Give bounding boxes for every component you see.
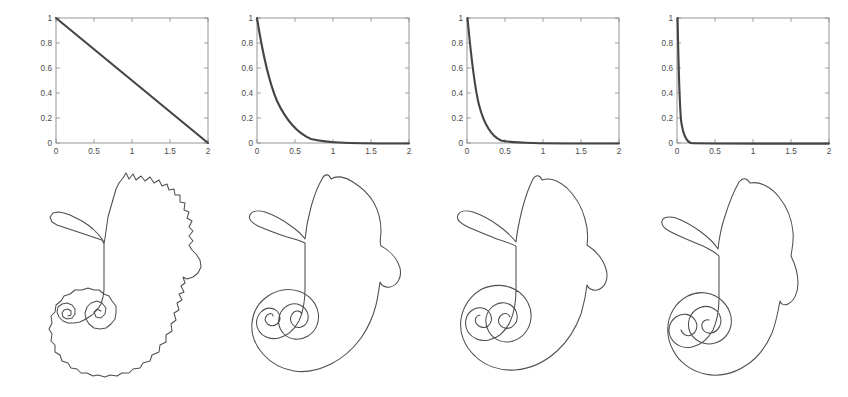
y-ticklabel: 0.8 — [662, 39, 674, 48]
y-ticklabel: 0.2 — [41, 114, 53, 123]
plot-svg-3: 0 0.2 0.4 0.6 0.8 1 0 0.5 1 1.5 2 — [411, 0, 623, 165]
panel-column-4: 0 0.2 0.4 0.6 0.8 1 0 0.5 1 1.5 2 — [621, 0, 833, 397]
shape-panel-4 — [621, 165, 833, 397]
y-ticklabel: 0.6 — [242, 64, 254, 73]
x-ticklabel: 0.5 — [709, 147, 721, 156]
shape-panel-3 — [411, 165, 623, 397]
seahorse-svg-4 — [621, 165, 833, 397]
y-ticklabel: 0.6 — [41, 64, 53, 73]
y-ticklabel: 0.8 — [452, 39, 464, 48]
data-curve-3 — [468, 18, 620, 144]
seahorse-contour-4 — [662, 179, 798, 375]
y-ticklabel: 0.2 — [452, 114, 464, 123]
x-ticklabel: 2 — [827, 147, 832, 156]
y-ticklabel: 0.4 — [452, 89, 464, 98]
y-ticklabel: 0 — [458, 139, 463, 148]
seahorse-svg-3 — [411, 165, 623, 397]
y-ticklabel: 0 — [248, 139, 253, 148]
plot-svg-1: 0 0.2 0.4 0.6 0.8 1 0 0.5 1 1.5 2 — [0, 0, 212, 165]
y-ticklabel: 0.6 — [452, 64, 464, 73]
data-curve-1 — [56, 18, 208, 143]
y-ticklabel: 0.4 — [242, 89, 254, 98]
seahorse-svg-1 — [0, 165, 212, 397]
x-ticklabel: 1 — [130, 147, 135, 156]
y-ticks — [677, 18, 829, 143]
x-ticklabel: 1.5 — [365, 147, 377, 156]
x-ticklabel: 1.5 — [164, 147, 176, 156]
plot-panel-1: 0 0.2 0.4 0.6 0.8 1 0 0.5 1 1.5 2 — [0, 0, 212, 165]
x-ticklabel: 0 — [465, 147, 470, 156]
plot-svg-4: 0 0.2 0.4 0.6 0.8 1 0 0.5 1 1.5 2 — [621, 0, 833, 165]
seahorse-contour-2 — [249, 175, 400, 372]
x-ticklabel: 0 — [255, 147, 260, 156]
y-ticklabel: 0.2 — [242, 114, 254, 123]
data-curve-2 — [257, 18, 409, 144]
y-ticklabel: 0.4 — [662, 89, 674, 98]
panel-column-1: 0 0.2 0.4 0.6 0.8 1 0 0.5 1 1.5 2 — [0, 0, 212, 397]
x-ticklabel: 1 — [751, 147, 756, 156]
plot-panel-2: 0 0.2 0.4 0.6 0.8 1 0 0.5 1 1.5 2 — [201, 0, 413, 165]
axis-box — [467, 18, 619, 143]
y-ticks — [257, 18, 409, 143]
y-ticklabel: 1 — [47, 14, 52, 23]
plot-panel-3: 0 0.2 0.4 0.6 0.8 1 0 0.5 1 1.5 2 — [411, 0, 623, 165]
x-ticklabel: 0.5 — [289, 147, 301, 156]
x-ticklabel: 0.5 — [499, 147, 511, 156]
panel-column-3: 0 0.2 0.4 0.6 0.8 1 0 0.5 1 1.5 2 — [411, 0, 623, 397]
x-ticks — [467, 18, 619, 143]
seahorse-contour-3 — [457, 176, 607, 370]
figure-root: 0 0.2 0.4 0.6 0.8 1 0 0.5 1 1.5 2 — [0, 0, 848, 397]
y-ticklabel: 1 — [248, 14, 253, 23]
x-ticks — [677, 18, 829, 143]
y-ticklabel: 0 — [668, 139, 673, 148]
shape-panel-2 — [201, 165, 413, 397]
data-curve-4 — [678, 18, 829, 144]
y-ticklabel: 1 — [458, 14, 463, 23]
y-ticklabel: 0.2 — [662, 114, 674, 123]
x-ticklabel: 0.5 — [88, 147, 100, 156]
x-ticklabel: 0 — [54, 147, 59, 156]
x-ticks — [257, 18, 409, 143]
x-ticklabel: 1.5 — [575, 147, 587, 156]
x-ticklabel: 1.5 — [785, 147, 797, 156]
y-ticklabel: 0.6 — [662, 64, 674, 73]
plot-svg-2: 0 0.2 0.4 0.6 0.8 1 0 0.5 1 1.5 2 — [201, 0, 413, 165]
axis-box — [257, 18, 409, 143]
x-ticklabel: 0 — [675, 147, 680, 156]
x-ticklabel: 1 — [541, 147, 546, 156]
seahorse-contour-1 — [49, 173, 201, 377]
shape-panel-1 — [0, 165, 212, 397]
axis-box — [677, 18, 829, 143]
y-ticklabel: 0.8 — [41, 39, 53, 48]
x-ticklabel: 1 — [331, 147, 336, 156]
y-ticks — [467, 18, 619, 143]
panel-column-2: 0 0.2 0.4 0.6 0.8 1 0 0.5 1 1.5 2 — [201, 0, 413, 397]
seahorse-svg-2 — [201, 165, 413, 397]
y-ticklabel: 0 — [47, 139, 52, 148]
y-ticklabel: 0.4 — [41, 89, 53, 98]
plot-panel-4: 0 0.2 0.4 0.6 0.8 1 0 0.5 1 1.5 2 — [621, 0, 833, 165]
y-ticklabel: 1 — [668, 14, 673, 23]
y-ticklabel: 0.8 — [242, 39, 254, 48]
